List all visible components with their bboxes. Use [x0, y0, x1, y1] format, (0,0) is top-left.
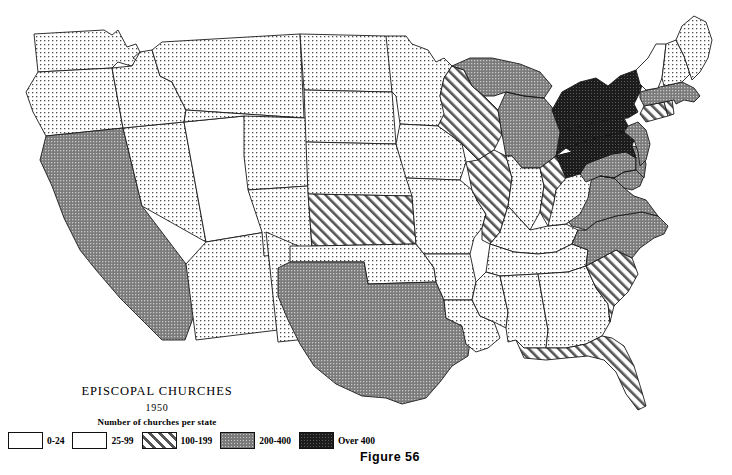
swatch-diagonal-hatch [142, 432, 177, 449]
state-ND[interactable] [300, 34, 392, 92]
state-WY2[interactable] [244, 116, 308, 190]
state-OR[interactable] [26, 68, 123, 136]
legend-label: Over 400 [338, 436, 375, 446]
legend-label: 200-400 [259, 436, 291, 446]
map-legend: EPISCOPAL CHURCHES 1950 Number of church… [0, 384, 400, 449]
legend-label: 0-24 [47, 436, 64, 446]
states-layer [26, 16, 712, 410]
swatch-solid-white [8, 432, 43, 449]
swatch-coarse-stipple [220, 432, 255, 449]
state-KS[interactable] [308, 194, 416, 246]
legend-item-100-199[interactable]: 100-199 [142, 432, 213, 449]
legend-heading: Number of churches per state [12, 417, 302, 427]
legend-swatch-row: 0-24 25-99 100-199 200-400 Over 400 [0, 432, 400, 449]
legend-item-over-400[interactable]: Over 400 [299, 432, 375, 449]
us-choropleth-map [0, 0, 732, 440]
map-year: 1950 [12, 402, 302, 413]
state-WA[interactable] [34, 30, 140, 72]
legend-label: 25-99 [111, 436, 133, 446]
legend-item-200-400[interactable]: 200-400 [220, 432, 291, 449]
figure-page: EPISCOPAL CHURCHES 1950 Number of church… [0, 0, 732, 475]
state-MN[interactable] [386, 36, 452, 126]
state-SD[interactable] [304, 90, 396, 144]
map-title: EPISCOPAL CHURCHES [12, 384, 302, 399]
legend-item-0-24[interactable]: 0-24 [8, 432, 64, 449]
legend-item-25-99[interactable]: 25-99 [72, 432, 133, 449]
swatch-fine-dots [72, 432, 107, 449]
figure-caption: Figure 56 [330, 450, 450, 464]
state-VT[interactable] [636, 44, 666, 90]
legend-label: 100-199 [181, 436, 213, 446]
swatch-dense-black-grid [299, 432, 334, 449]
map-svg [0, 0, 732, 440]
